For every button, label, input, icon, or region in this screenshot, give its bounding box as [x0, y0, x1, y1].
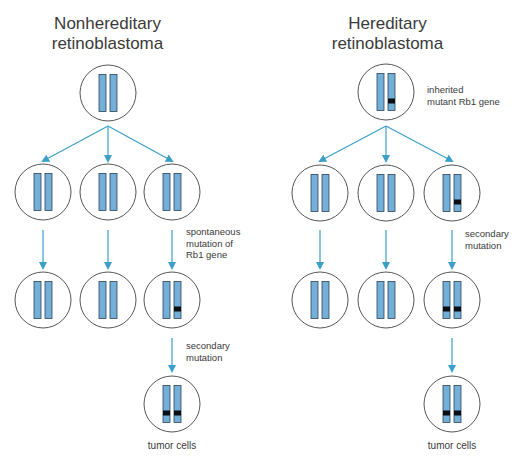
- chromosome: [443, 386, 450, 423]
- cell-outline: [424, 165, 480, 221]
- chromosome: [174, 282, 181, 319]
- arrows: [43, 126, 452, 371]
- cell-outline: [144, 272, 200, 328]
- chromosome: [388, 282, 395, 319]
- chromosome: [110, 282, 117, 319]
- left-tumor-cells-label: tumor cells: [132, 440, 212, 451]
- arrow: [386, 126, 452, 161]
- chromosome: [311, 282, 318, 319]
- cell: [292, 272, 348, 328]
- chromosome: [322, 175, 329, 212]
- right-tumor-cells-label: tumor cells: [412, 440, 492, 451]
- cells: [15, 64, 480, 432]
- chromosome: [99, 282, 106, 319]
- cell-outline: [144, 164, 200, 220]
- cell: [15, 272, 71, 328]
- cell-outline: [144, 376, 200, 432]
- chromosome: [388, 175, 395, 212]
- chromosome: [454, 282, 461, 319]
- chromosome: [377, 282, 384, 319]
- cell: [144, 272, 200, 328]
- cell-outline: [80, 65, 136, 121]
- chromosome: [163, 386, 170, 423]
- cell-outline: [424, 376, 480, 432]
- chromosome: [163, 174, 170, 211]
- cell-outline: [80, 272, 136, 328]
- cell-outline: [358, 64, 414, 120]
- chromosome: [388, 74, 395, 111]
- retinoblastoma-diagram: [0, 0, 523, 462]
- arrow: [43, 126, 108, 161]
- cell-outline: [15, 164, 71, 220]
- cell-outline: [292, 165, 348, 221]
- cell-outline: [292, 272, 348, 328]
- cell: [358, 272, 414, 328]
- chromosome: [311, 175, 318, 212]
- cell: [144, 376, 200, 432]
- left-title-line1: Nonhereditary: [20, 14, 195, 34]
- chromosome: [163, 282, 170, 319]
- chromosome: [110, 75, 117, 112]
- cell: [292, 165, 348, 221]
- rb1-mutation-mark: [443, 411, 450, 416]
- arrow: [320, 126, 386, 161]
- rb1-mutation-mark: [454, 411, 461, 416]
- rb1-mutation-mark: [454, 307, 461, 312]
- rb1-mutation-mark: [454, 200, 461, 205]
- right-title-line1: Hereditary: [300, 14, 475, 34]
- cell: [144, 164, 200, 220]
- left-title: Nonhereditary retinoblastoma: [20, 14, 195, 54]
- cell: [80, 272, 136, 328]
- cell: [80, 164, 136, 220]
- right-title-line2: retinoblastoma: [300, 34, 475, 54]
- chromosome: [377, 74, 384, 111]
- cell-outline: [80, 164, 136, 220]
- inherited-mutant-label: inherited mutant Rb1 gene: [427, 84, 500, 107]
- cell: [358, 64, 414, 120]
- cell: [358, 165, 414, 221]
- cell: [80, 65, 136, 121]
- chromosome: [454, 386, 461, 423]
- rb1-mutation-mark: [174, 307, 181, 312]
- spontaneous-mutation-label: spontaneous mutation of Rb1 gene: [186, 226, 240, 261]
- chromosome: [454, 175, 461, 212]
- cell: [424, 272, 480, 328]
- chromosome: [443, 175, 450, 212]
- left-title-line2: retinoblastoma: [20, 34, 195, 54]
- cell: [15, 164, 71, 220]
- left-secondary-mutation-label: secondary mutation: [186, 340, 230, 363]
- cell-outline: [358, 272, 414, 328]
- arrow: [108, 126, 172, 161]
- right-secondary-mutation-label: secondary mutation: [465, 228, 509, 251]
- chromosome: [99, 174, 106, 211]
- chromosome: [377, 175, 384, 212]
- cell: [424, 165, 480, 221]
- chromosome: [174, 174, 181, 211]
- chromosome: [34, 174, 41, 211]
- rb1-mutation-mark: [443, 307, 450, 312]
- chromosome: [443, 282, 450, 319]
- cell-outline: [15, 272, 71, 328]
- chromosome: [110, 174, 117, 211]
- chromosome: [174, 386, 181, 423]
- rb1-mutation-mark: [163, 411, 170, 416]
- chromosome: [322, 282, 329, 319]
- chromosome: [99, 75, 106, 112]
- rb1-mutation-mark: [388, 99, 395, 104]
- right-title: Hereditary retinoblastoma: [300, 14, 475, 54]
- cell-outline: [424, 272, 480, 328]
- cell-outline: [358, 165, 414, 221]
- chromosome: [34, 282, 41, 319]
- chromosome: [45, 282, 52, 319]
- cell: [424, 376, 480, 432]
- rb1-mutation-mark: [174, 411, 181, 416]
- chromosome: [45, 174, 52, 211]
